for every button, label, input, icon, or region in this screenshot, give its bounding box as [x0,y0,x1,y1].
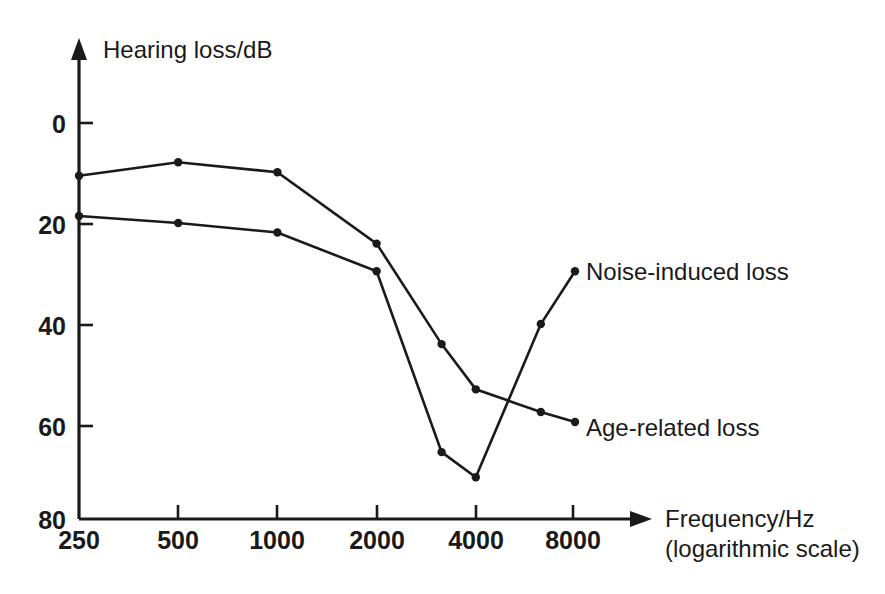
data-point [437,448,445,456]
x-tick-label-250: 250 [58,526,100,554]
y-axis-arrow-icon [71,38,87,60]
data-point [273,228,281,236]
x-axis-subtitle: (logarithmic scale) [665,535,860,562]
x-axis-title: Frequency/Hz [665,505,814,532]
series-line-age-related [79,162,575,422]
x-axis-ticks [178,505,573,519]
data-point [571,267,579,275]
chart-canvas: 0 20 40 60 80 250 500 1000 2000 4000 800… [0,0,885,594]
data-point [437,340,445,348]
data-point [174,158,182,166]
data-point [537,320,545,328]
x-axis-arrow-icon [630,511,652,527]
data-point [571,418,579,426]
series-markers-age-related [75,158,579,426]
series-label-noise-induced: Noise-induced loss [586,258,789,285]
y-axis-ticks [79,123,93,426]
data-point [372,267,380,275]
data-point [372,239,380,247]
series-line-noise-induced [79,216,575,477]
x-tick-label-1000: 1000 [249,526,305,554]
y-tick-label-20: 20 [38,211,66,239]
x-tick-label-8000: 8000 [545,526,601,554]
data-point [472,473,480,481]
data-point [75,212,83,220]
y-tick-label-0: 0 [52,110,66,138]
data-point [472,385,480,393]
y-tick-label-60: 60 [38,413,66,441]
data-point [537,408,545,416]
hearing-loss-chart: 0 20 40 60 80 250 500 1000 2000 4000 800… [0,0,885,594]
y-axis-title: Hearing loss/dB [103,36,272,63]
x-tick-label-500: 500 [157,526,199,554]
x-tick-label-4000: 4000 [448,526,504,554]
data-point [174,219,182,227]
y-tick-label-40: 40 [38,312,66,340]
data-point [273,168,281,176]
x-tick-label-2000: 2000 [349,526,405,554]
data-point [75,172,83,180]
series-label-age-related: Age-related loss [586,414,759,441]
